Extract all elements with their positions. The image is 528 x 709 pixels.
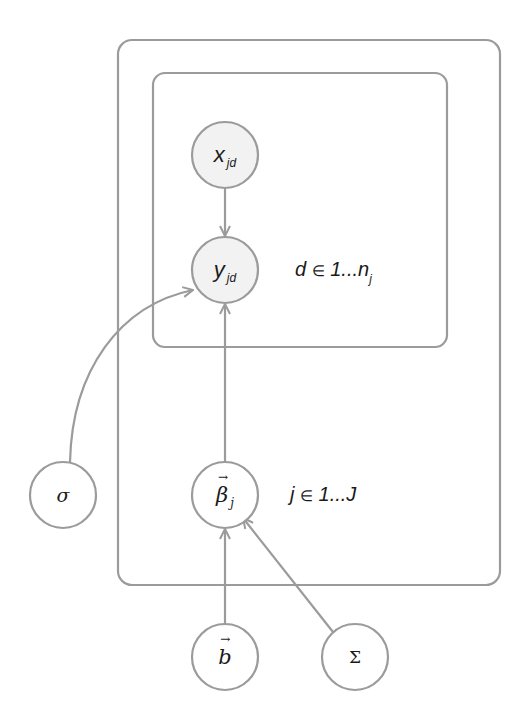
element-of-symbol: ∈ [312, 262, 325, 279]
label-b: b [192, 624, 258, 690]
plate-var-j: j [290, 483, 294, 505]
plate-range: 1...n [330, 258, 369, 280]
graphical-model-canvas [0, 0, 528, 709]
label-y-jd: yjd [192, 237, 258, 303]
subscript-j: j [230, 496, 234, 510]
subscript-jd: jd [227, 156, 236, 170]
symbol-b-vector: b [218, 645, 231, 669]
plate-range: 1...J [319, 483, 357, 505]
label-beta-j: βj [192, 462, 258, 528]
symbol-sigma: σ [57, 484, 70, 506]
edge-Sigma-to-beta [243, 518, 333, 632]
inner-plate-label: d ∈ 1...nj [295, 258, 372, 281]
element-of-symbol: ∈ [300, 487, 313, 504]
outer-plate-label: j ∈ 1...J [290, 483, 356, 506]
symbol-y: y [214, 257, 225, 283]
inner-plate-d [153, 73, 447, 347]
symbol-x: x [214, 142, 225, 168]
symbol-capital-sigma: Σ [349, 647, 361, 667]
plate-var-d: d [295, 258, 306, 280]
subscript-jd: jd [227, 271, 236, 285]
edge-sigma-to-y [70, 290, 193, 462]
symbol-beta-vector: β [216, 483, 228, 507]
plate-range-subscript: j [369, 272, 372, 286]
label-Sigma: Σ [322, 624, 388, 690]
label-x-jd: xjd [192, 122, 258, 188]
label-sigma: σ [30, 462, 96, 528]
